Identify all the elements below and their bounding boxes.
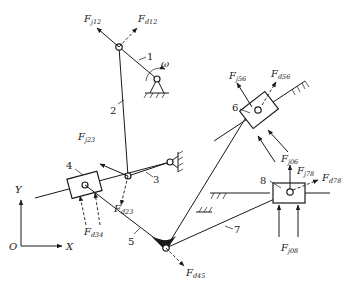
svg-text:2: 2 [110,105,116,116]
ground-mark-link5 [196,207,212,212]
ground-pivot-crank [144,76,169,98]
force-fj06: Fj06 [258,130,298,166]
linkage-force-diagram: 1 ω 2 3 [0,0,347,288]
slider-6: 6 [214,81,309,141]
svg-text:Fj56: Fj56 [228,70,246,83]
svg-text:Fj06: Fj06 [280,153,298,166]
axis-x-label: X [65,241,74,252]
svg-text:Fj12: Fj12 [83,13,101,26]
force-fj23: Fj23 [77,131,128,176]
svg-text:1: 1 [147,51,153,62]
force-fd45: Fd45 [166,248,205,280]
link-7: 7 [166,192,290,248]
ground-pivot-link3 [167,151,183,172]
svg-text:Fj08: Fj08 [280,242,298,255]
slider-8: 8 [210,175,330,203]
force-fd12: Fd12 [119,13,157,47]
svg-text:4: 4 [66,160,72,171]
link-2: 2 [110,47,128,176]
svg-text:Fd23: Fd23 [113,203,133,216]
force-fd34: Fd34 [80,193,103,239]
svg-text:Fj23: Fj23 [77,131,95,144]
svg-text:Fd34: Fd34 [83,226,103,239]
svg-text:5: 5 [128,236,134,247]
svg-text:Fd12: Fd12 [137,13,157,26]
axis-origin-label: O [9,241,17,252]
svg-text:7: 7 [234,224,240,235]
svg-text:ω: ω [161,58,169,69]
svg-text:6: 6 [232,102,238,113]
link-1: 1 [119,47,157,79]
svg-text:Fj78: Fj78 [296,165,314,178]
slider-4: 4 [66,160,102,199]
coordinate-axes: O Y X [9,184,74,252]
svg-text:Fd78: Fd78 [321,172,341,185]
force-fj08: Fj08 [279,205,298,255]
svg-text:Fd56: Fd56 [270,68,290,81]
force-fj12: Fj12 [83,13,119,47]
svg-text:8: 8 [260,175,266,186]
svg-text:3: 3 [153,174,159,185]
axis-y-label: Y [15,184,23,195]
force-fd23: Fd23 [113,176,133,216]
svg-text:Fd45: Fd45 [185,267,205,280]
link-3: 3 [35,162,170,198]
